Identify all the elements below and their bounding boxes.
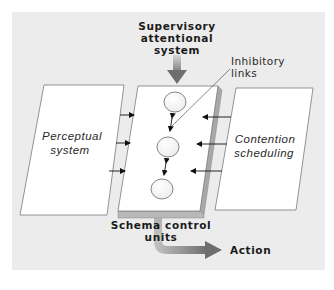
schema-label-line1: Schema control — [111, 219, 211, 231]
attention-diagram: Supervisory attentional system Inhibitor… — [0, 0, 334, 290]
schema-unit-2 — [157, 137, 179, 157]
perceptual-label-line2: system — [50, 144, 89, 156]
inhibitory-label-line2: links — [231, 67, 257, 79]
sas-label-line2: attentional — [141, 32, 213, 44]
contention-label-line2: scheduling — [234, 147, 294, 159]
perceptual-label-line1: Perceptual — [42, 130, 102, 142]
inhibitory-label-line1: Inhibitory — [231, 55, 285, 67]
schema-unit-3 — [151, 179, 173, 199]
sas-label-line1: Supervisory — [138, 20, 215, 32]
schema-label-line2: units — [145, 231, 178, 243]
schema-unit-1 — [164, 92, 186, 112]
contention-label-line1: Contention — [235, 133, 296, 145]
action-label: Action — [230, 244, 271, 256]
sas-label-line3: system — [154, 44, 200, 56]
